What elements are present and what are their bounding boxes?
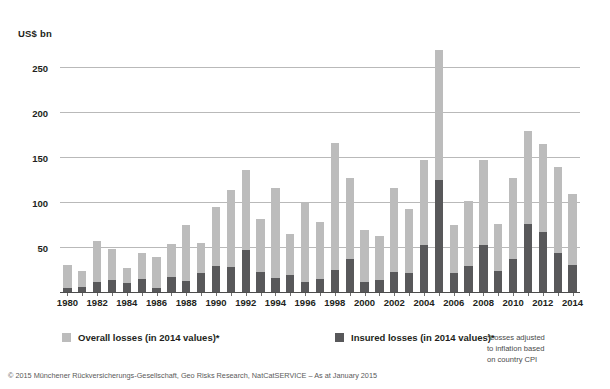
x-tick-1990 <box>216 293 217 296</box>
bar-1995[interactable] <box>286 233 294 293</box>
bar-segment-insured-1991 <box>227 267 235 293</box>
x-tick-2002 <box>394 293 395 296</box>
bar-2009[interactable] <box>494 224 502 293</box>
bar-1987[interactable] <box>167 244 175 293</box>
bar-2001[interactable] <box>375 236 383 293</box>
bar-segment-overall-2012 <box>539 144 547 231</box>
bar-segment-insured-1995 <box>286 275 294 293</box>
bar-1986[interactable] <box>152 257 160 293</box>
bar-segment-insured-2009 <box>494 271 502 293</box>
bar-1991[interactable] <box>227 190 235 293</box>
bar-segment-overall-2002 <box>390 188 398 273</box>
bar-1989[interactable] <box>197 243 205 294</box>
x-tick-1993 <box>261 293 262 296</box>
bar-2008[interactable] <box>479 160 487 293</box>
bar-1996[interactable] <box>301 203 309 293</box>
bar-segment-insured-1985 <box>138 279 146 293</box>
bar-segment-overall-1989 <box>197 243 205 274</box>
bar-2003[interactable] <box>405 209 413 293</box>
bar-segment-overall-2005 <box>435 50 443 181</box>
x-tick-label-1988: 1988 <box>176 297 197 308</box>
x-tick-label-2008: 2008 <box>473 297 494 308</box>
bar-1999[interactable] <box>346 178 354 293</box>
bar-1992[interactable] <box>242 170 250 293</box>
bar-segment-overall-2010 <box>509 178 517 259</box>
bar-segment-insured-1987 <box>167 277 175 293</box>
x-tick-2006 <box>454 293 455 296</box>
bar-2002[interactable] <box>390 188 398 294</box>
bar-1993[interactable] <box>256 219 264 293</box>
bar-segment-overall-1996 <box>301 203 309 282</box>
footnote: *Losses adjusted to inflation based on c… <box>487 332 597 365</box>
legend-item-overall[interactable]: Overall losses (in 2014 values)* <box>62 332 220 343</box>
x-tick-label-1992: 1992 <box>235 297 256 308</box>
bar-segment-overall-2001 <box>375 236 383 280</box>
bar-1983[interactable] <box>108 249 116 293</box>
bar-segment-overall-2007 <box>464 201 472 266</box>
x-tick-label-1984: 1984 <box>116 297 137 308</box>
x-tick-2007 <box>469 293 470 296</box>
x-tick-1987 <box>171 293 172 296</box>
bar-segment-insured-1989 <box>197 273 205 293</box>
legend-item-insured[interactable]: Insured losses (in 2014 values)* <box>335 332 495 343</box>
bar-segment-insured-1997 <box>316 279 324 293</box>
bar-segment-insured-2004 <box>420 245 428 293</box>
footnote-line-1: *Losses adjusted <box>487 332 597 343</box>
bar-2013[interactable] <box>554 167 562 293</box>
bar-segment-insured-2014 <box>568 265 576 293</box>
bar-segment-overall-1990 <box>212 207 220 266</box>
bar-1981[interactable] <box>78 271 86 293</box>
x-tick-1982 <box>97 293 98 296</box>
x-tick-2011 <box>528 293 529 296</box>
footnote-line-3: on country CPI <box>487 354 597 365</box>
bar-segment-insured-2005 <box>435 180 443 293</box>
bar-segment-overall-2013 <box>554 167 562 254</box>
x-tick-2001 <box>379 293 380 296</box>
x-tick-1996 <box>305 293 306 296</box>
bar-1994[interactable] <box>271 188 279 294</box>
bar-2012[interactable] <box>539 144 547 293</box>
bar-segment-overall-2008 <box>479 160 487 245</box>
bar-2006[interactable] <box>450 225 458 293</box>
bar-segment-insured-1998 <box>331 270 339 293</box>
x-tick-1995 <box>290 293 291 296</box>
bar-2000[interactable] <box>360 230 368 293</box>
bar-segment-insured-1999 <box>346 259 354 293</box>
x-tick-label-1996: 1996 <box>295 297 316 308</box>
x-tick-2008 <box>483 293 484 296</box>
x-tick-2012 <box>543 293 544 296</box>
y-tick-label-250: 250 <box>32 62 48 73</box>
bar-2014[interactable] <box>568 194 576 293</box>
bar-segment-overall-1987 <box>167 244 175 276</box>
x-tick-label-2000: 2000 <box>354 297 375 308</box>
copyright-notice: © 2015 Münchener Rückversicherungs-Gesel… <box>8 371 377 380</box>
bar-segment-overall-1980 <box>63 265 71 288</box>
bar-1984[interactable] <box>123 268 131 293</box>
bar-2004[interactable] <box>420 160 428 293</box>
bar-segment-insured-1993 <box>256 272 264 293</box>
bar-segment-insured-2013 <box>554 253 562 293</box>
bar-segment-insured-2012 <box>539 232 547 293</box>
bar-segment-insured-2003 <box>405 273 413 293</box>
bar-segment-overall-1997 <box>316 222 324 280</box>
bar-2007[interactable] <box>464 201 472 293</box>
x-tick-label-2014: 2014 <box>562 297 583 308</box>
bar-1985[interactable] <box>138 253 146 293</box>
bar-segment-overall-1999 <box>346 178 354 258</box>
bar-segment-insured-2011 <box>524 224 532 293</box>
x-tick-1997 <box>320 293 321 296</box>
bar-1997[interactable] <box>316 222 324 293</box>
x-tick-label-2004: 2004 <box>413 297 434 308</box>
insured-losses-swatch <box>335 333 344 342</box>
bar-1998[interactable] <box>331 143 339 293</box>
bar-1988[interactable] <box>182 225 190 293</box>
bar-2011[interactable] <box>524 131 532 293</box>
x-tick-1980 <box>67 293 68 296</box>
bar-1990[interactable] <box>212 207 220 293</box>
bar-segment-insured-1994 <box>271 278 279 293</box>
footnote-line-2: to inflation based <box>487 343 597 354</box>
bar-1982[interactable] <box>93 241 101 293</box>
bar-1980[interactable] <box>63 265 71 293</box>
bar-2005[interactable] <box>435 50 443 293</box>
bar-2010[interactable] <box>509 178 517 293</box>
